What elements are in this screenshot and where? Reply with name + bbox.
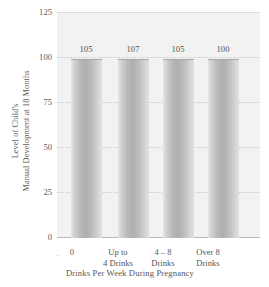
- bar-4-to-8[interactable]: [163, 59, 194, 238]
- plot-area: 105 107 105 100: [57, 12, 260, 238]
- bar-value-label-0: 105: [64, 45, 108, 54]
- gridline-100: [57, 57, 260, 58]
- y-tick-label-50: 50: [28, 143, 52, 152]
- gridline-125: [57, 12, 260, 13]
- y-tick-label-100: 100: [28, 53, 52, 62]
- y-tick-label-125: 125: [28, 8, 52, 17]
- x-tick-label-over-8: Over 8 Drinks: [180, 247, 236, 268]
- y-tick-label-0: 0: [28, 233, 52, 242]
- x-tick-label-over-8-line2: Drinks: [180, 258, 236, 269]
- bar-value-label-4-to-8: 105: [156, 45, 200, 54]
- x-axis-title: Drinks Per Week During Pregnancy: [38, 268, 222, 278]
- bar-value-label-over-8: 100: [201, 45, 245, 54]
- x-tick-label-over-8-line1: Over 8: [180, 247, 236, 258]
- y-tick-label-25: 25: [28, 188, 52, 197]
- y-tick-label-75: 75: [28, 98, 52, 107]
- bar-0[interactable]: [71, 59, 102, 238]
- bar-chart-figure: Level of Child's Manual Development at 1…: [0, 0, 269, 287]
- bar-over-8[interactable]: [208, 59, 239, 238]
- y-axis-tick-labels: 125 100 75 50 25 0: [28, 0, 52, 287]
- bar-value-label-up-to-4: 107: [111, 45, 155, 54]
- bar-up-to-4[interactable]: [118, 59, 149, 238]
- y-axis-title-line1: Level of Child's: [10, 70, 21, 191]
